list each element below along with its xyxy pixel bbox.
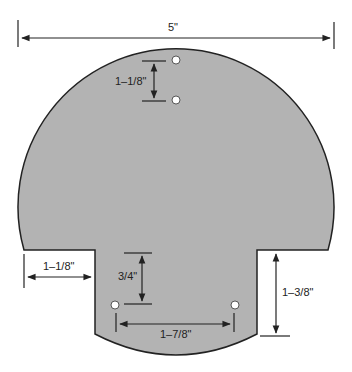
hole-stem-right xyxy=(231,301,239,309)
template-diagram xyxy=(0,0,352,372)
label-left-shoulder: 1–1/8" xyxy=(43,260,74,272)
label-top-hole-spacing: 1–1/8" xyxy=(115,75,146,87)
label-overall-width: 5" xyxy=(168,21,178,33)
label-stem-hole-spacing: 1–7/8" xyxy=(160,328,191,340)
hole-top-1 xyxy=(172,56,180,64)
label-stem-height: 1–3/8" xyxy=(282,286,313,298)
hole-stem-left xyxy=(111,301,119,309)
hole-top-2 xyxy=(172,96,180,104)
template-outline xyxy=(18,49,334,355)
label-stem-hole-offset: 3/4" xyxy=(118,270,137,282)
